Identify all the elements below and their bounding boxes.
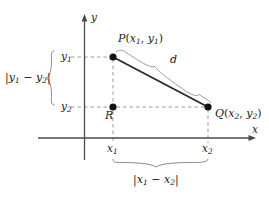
horizontal-brace-path <box>113 159 208 167</box>
horizontal-brace-minus: − <box>148 173 164 186</box>
tick-label-y2-sub: 2 <box>67 105 72 114</box>
distance-brace-path <box>116 50 211 103</box>
vertical-brace-minus: − <box>20 71 36 84</box>
tick-label-x1: x1 <box>107 143 118 155</box>
x-axis-label: x <box>252 124 258 135</box>
point-label-r: R <box>105 110 113 121</box>
tick-label-y2: y2 <box>61 101 72 113</box>
segment-label-d: d <box>170 54 177 65</box>
tick-label-x1-sub: 1 <box>113 147 118 156</box>
distance-formula-diagram: y x P(x1, y1) Q(x2, y2) R d y1 y2 x1 x2 … <box>0 0 269 198</box>
point-label-p-close: ) <box>159 32 163 45</box>
tick-label-x2: x2 <box>202 143 213 155</box>
y-axis-arrowhead <box>82 14 88 22</box>
diagram-canvas <box>0 0 269 198</box>
horizontal-brace-bar2: | <box>175 173 179 186</box>
x-axis-arrowhead <box>249 135 257 141</box>
point-marker-q <box>204 103 211 110</box>
vertical-brace-label: |y1 − y2| <box>5 72 51 84</box>
point-label-q-name: Q <box>215 107 224 120</box>
point-label-p: P(x1, y1) <box>118 33 163 45</box>
point-label-q: Q(x2, y2) <box>215 108 262 120</box>
point-label-p-comma: , <box>141 32 148 45</box>
vertical-brace-bar2: | <box>47 71 51 84</box>
horizontal-brace-label: |x1 − x2| <box>133 174 179 186</box>
segment-pq <box>113 57 208 107</box>
point-label-q-close: ) <box>257 107 261 120</box>
tick-label-y1-sub: 1 <box>67 55 72 64</box>
tick-label-x2-sub: 2 <box>208 147 213 156</box>
tick-label-y1: y1 <box>61 51 72 63</box>
y-axis-label: y <box>91 12 97 23</box>
point-marker-p <box>109 53 116 60</box>
